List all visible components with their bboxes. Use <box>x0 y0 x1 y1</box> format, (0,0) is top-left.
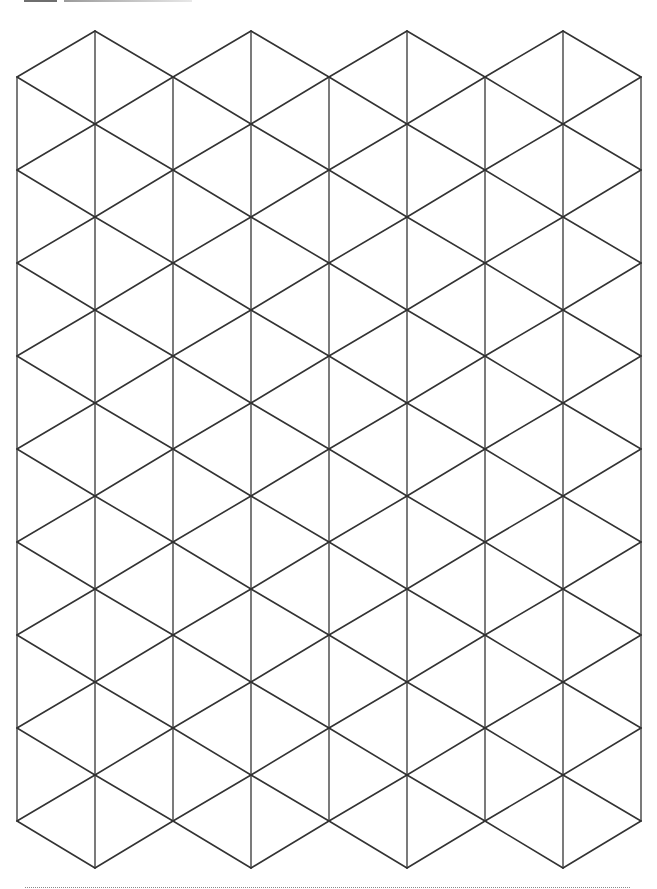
grid-line <box>251 310 329 356</box>
grid-line <box>251 170 329 217</box>
grid-line <box>485 449 563 496</box>
grid-line <box>407 496 485 542</box>
grid-line <box>485 728 563 775</box>
grid-line <box>95 635 173 682</box>
grid-line <box>95 775 173 821</box>
grid-line <box>485 263 563 310</box>
grid-line <box>17 635 95 682</box>
grid-line <box>407 77 485 124</box>
grid-line <box>17 682 95 728</box>
grid-line <box>173 682 251 728</box>
grid-line <box>173 31 251 77</box>
grid-line <box>563 635 641 682</box>
grid-line <box>251 589 329 635</box>
grid-line <box>95 170 173 217</box>
grid-line <box>329 542 407 589</box>
grid-line <box>251 542 329 589</box>
grid-line <box>173 356 251 403</box>
grid-line <box>563 263 641 310</box>
grid-line <box>95 31 173 77</box>
grid-line <box>485 542 563 589</box>
grid-line <box>17 449 95 496</box>
grid-line <box>563 77 641 124</box>
grid-line <box>251 403 329 449</box>
grid-line <box>251 124 329 170</box>
grid-line <box>17 356 95 403</box>
grid-line <box>95 403 173 449</box>
grid-line <box>173 310 251 356</box>
grid-line <box>485 496 563 542</box>
grid-line <box>485 170 563 217</box>
grid-line <box>563 821 641 868</box>
grid-line <box>17 821 95 868</box>
grid-line <box>329 31 407 77</box>
grid-line <box>329 496 407 542</box>
footer-dotted-rule <box>25 887 630 888</box>
grid-line <box>563 589 641 635</box>
grid-line <box>17 310 95 356</box>
grid-line <box>563 775 641 821</box>
grid-line <box>563 31 641 77</box>
grid-line <box>329 263 407 310</box>
grid-line <box>329 217 407 263</box>
grid-line <box>95 589 173 635</box>
grid-line <box>407 217 485 263</box>
grid-line <box>95 356 173 403</box>
grid-line <box>173 589 251 635</box>
grid-line <box>17 124 95 170</box>
grid-line <box>95 77 173 124</box>
grid-line <box>485 310 563 356</box>
grid-line <box>563 217 641 263</box>
grid-line <box>563 542 641 589</box>
grid-line <box>329 124 407 170</box>
grid-line <box>485 403 563 449</box>
grid-line <box>251 775 329 821</box>
grid-line <box>251 217 329 263</box>
grid-line <box>485 775 563 821</box>
grid-line <box>329 682 407 728</box>
grid-line <box>563 124 641 170</box>
grid-line <box>95 682 173 728</box>
grid-line <box>563 728 641 775</box>
grid-line <box>329 821 407 868</box>
grid-line <box>407 589 485 635</box>
grid-line <box>173 170 251 217</box>
grid-line <box>485 821 563 868</box>
grid-line <box>485 682 563 728</box>
grid-line <box>17 263 95 310</box>
grid-line <box>17 496 95 542</box>
grid-line <box>329 77 407 124</box>
grid-line <box>251 356 329 403</box>
grid-line <box>329 589 407 635</box>
grid-line <box>173 77 251 124</box>
grid-line <box>173 821 251 868</box>
grid-line <box>563 403 641 449</box>
grid-line <box>485 31 563 77</box>
grid-line <box>251 496 329 542</box>
grid-line <box>173 496 251 542</box>
grid-line <box>563 310 641 356</box>
grid-line <box>407 542 485 589</box>
grid-line <box>563 682 641 728</box>
grid-line <box>95 821 173 868</box>
grid-line <box>173 217 251 263</box>
grid-line <box>173 635 251 682</box>
grid-line <box>251 263 329 310</box>
grid-line <box>407 682 485 728</box>
grid-line <box>407 635 485 682</box>
grid-line <box>407 31 485 77</box>
grid-line <box>407 124 485 170</box>
grid-line <box>17 775 95 821</box>
grid-line <box>95 496 173 542</box>
grid-line <box>173 263 251 310</box>
grid-line <box>329 170 407 217</box>
grid-line <box>329 635 407 682</box>
grid-line <box>251 728 329 775</box>
grid-line <box>329 728 407 775</box>
grid-line <box>251 449 329 496</box>
grid-line <box>407 821 485 868</box>
grid-line <box>407 403 485 449</box>
grid-line <box>563 170 641 217</box>
grid-line <box>485 356 563 403</box>
grid-line <box>485 217 563 263</box>
